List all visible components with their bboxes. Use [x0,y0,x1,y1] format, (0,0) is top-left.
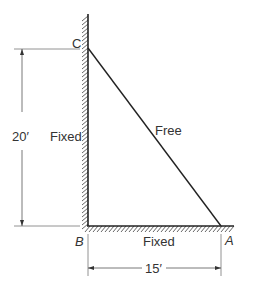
arrowhead-up-icon [20,49,24,55]
edge-label-ca-free: Free [155,124,182,137]
horizontal-hatch-marks [85,226,234,232]
diagram-canvas [0,0,260,288]
point-label-b: B [75,235,84,248]
arrowhead-left-icon [88,266,94,270]
dimension-horizontal: 15′ [145,262,162,275]
arrowhead-right-icon [215,266,221,270]
point-label-a: A [225,234,234,247]
edge-label-ba-fixed: Fixed [143,235,175,248]
vertical-hatch-marks [82,16,88,229]
edge-label-bc-fixed: Fixed [50,130,82,143]
dimension-vertical: 20′ [12,130,29,143]
arrowhead-down-icon [20,220,24,226]
point-label-c: C [72,37,81,50]
